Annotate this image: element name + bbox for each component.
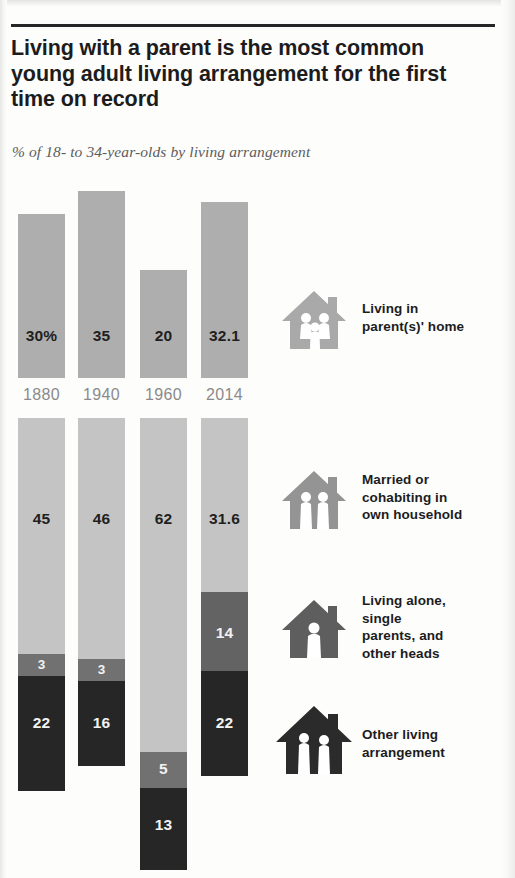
legend-line-1: Living in (362, 301, 418, 316)
legend-label-living-alone: Living alone, single parents, and other … (362, 592, 508, 662)
year-label-1880: 1880 (18, 386, 65, 404)
stacked-bar-1880: 45 3 22 (18, 418, 65, 791)
stacked-bar-1940: 46 3 16 (78, 418, 125, 766)
stack-value-other-1940: 16 (78, 714, 125, 732)
year-label-1940: 1940 (78, 386, 125, 404)
year-label-1960: 1960 (140, 386, 187, 404)
legend-line-2: cohabiting in (362, 490, 447, 505)
legend-line-4: other heads (362, 646, 440, 661)
top-bar-1880: 30% (18, 214, 65, 378)
stack-value-married-1960: 62 (140, 510, 187, 528)
legend-line-2: parent(s)' home (362, 319, 464, 334)
stack-value-alone-1960: 5 (140, 760, 187, 778)
top-bar-value-1940: 35 (78, 327, 125, 345)
stacked-bar-1960: 62 5 13 (140, 418, 187, 870)
legend-label-living-in-parents-home: Living in parent(s)' home (362, 300, 508, 335)
legend-item-living-in-parents-home: Living in parent(s)' home (278, 283, 508, 355)
top-bar-1940: 35 (78, 191, 125, 378)
stack-value-married-2014: 31.6 (201, 510, 248, 528)
legend-item-married-or-cohabiting: Married or cohabiting in own household (278, 463, 508, 535)
stack-segment-married-1960 (140, 418, 187, 752)
year-label-2014: 2014 (201, 386, 248, 404)
stack-value-married-1880: 45 (18, 510, 65, 528)
legend-line-2: arrangement (362, 745, 445, 760)
legend-label-other-living-arrangement: Other living arrangement (362, 726, 508, 761)
stack-value-alone-1940: 3 (78, 662, 125, 677)
stack-value-alone-1880: 3 (18, 657, 65, 672)
top-bar-value-2014: 32.1 (201, 327, 248, 345)
top-bar-segment-parents-home (18, 214, 65, 378)
legend-item-other-living-arrangement: Other living arrangement (272, 700, 508, 778)
stack-value-alone-2014: 14 (201, 624, 248, 642)
legend-line-1: Living alone, (362, 593, 446, 608)
legend-line-1: Other living (362, 727, 438, 742)
legend-label-married-or-cohabiting: Married or cohabiting in own household (362, 471, 508, 524)
top-bar-value-1880: 30% (18, 327, 65, 345)
legend-line-3: parents, and (362, 628, 443, 643)
house-with-two-people-icon (272, 700, 356, 782)
stack-segment-other-1880 (18, 676, 65, 791)
stack-value-other-1960: 13 (140, 816, 187, 834)
legend-item-living-alone: Living alone, single parents, and other … (278, 592, 508, 668)
stack-value-married-1940: 46 (78, 510, 125, 528)
stack-value-other-2014: 22 (201, 714, 248, 732)
infographic-page: Living with a parent is the most common … (0, 0, 515, 878)
legend-line-1: Married or (362, 472, 429, 487)
top-bar-segment-parents-home (78, 191, 125, 378)
top-bar-segment-parents-home (140, 270, 187, 378)
top-bar-segment-parents-home (201, 202, 248, 378)
legend-line-3: own household (362, 507, 462, 522)
top-bar-value-1960: 20 (140, 327, 187, 345)
stack-value-other-1880: 22 (18, 714, 65, 732)
house-with-couple-icon (278, 463, 350, 539)
stack-segment-married-2014 (201, 418, 248, 592)
house-with-parents-and-child-icon (278, 283, 350, 359)
top-bar-1960: 20 (140, 270, 187, 378)
house-with-single-person-icon (278, 592, 350, 668)
stack-segment-married-1880 (18, 418, 65, 654)
stack-segment-married-1940 (78, 418, 125, 659)
legend-line-2: single (362, 611, 402, 626)
top-bar-2014: 32.1 (201, 202, 248, 378)
stacked-bar-2014: 31.6 14 22 (201, 418, 248, 776)
